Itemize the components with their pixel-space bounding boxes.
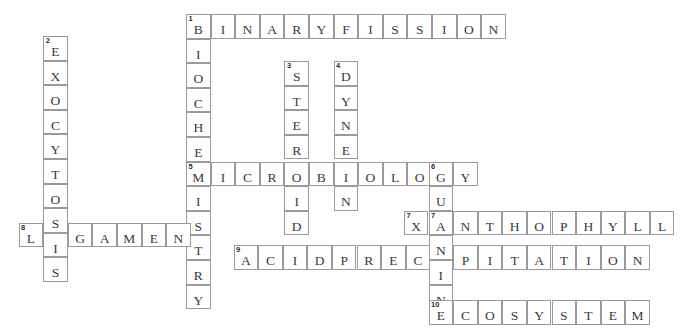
crossword-cell[interactable]: R [284, 135, 309, 160]
crossword-cell[interactable]: 3S [284, 61, 309, 86]
crossword-cell[interactable]: B [309, 162, 334, 187]
crossword-cell[interactable]: Y [453, 162, 478, 187]
crossword-cell[interactable]: T [43, 159, 68, 184]
crossword-cell[interactable]: A [260, 14, 285, 39]
crossword-cell[interactable]: N [235, 14, 260, 39]
crossword-cell[interactable]: I [358, 14, 383, 39]
crossword-cell[interactable]: S [407, 14, 432, 39]
crossword-cell[interactable]: 9A [234, 245, 259, 270]
crossword-cell[interactable]: C [453, 300, 478, 325]
crossword-cell[interactable]: T [576, 300, 601, 325]
crossword-cell[interactable]: I [283, 245, 308, 270]
crossword-cell[interactable]: I [186, 186, 211, 211]
crossword-cell[interactable]: C [235, 162, 260, 187]
crossword-cell[interactable]: I [186, 39, 211, 64]
crossword-cell[interactable]: I [429, 260, 454, 285]
crossword-cell[interactable]: R [186, 260, 211, 285]
crossword-cell[interactable]: L [383, 162, 408, 187]
crossword-cell[interactable]: N [625, 245, 650, 270]
crossword-cell[interactable]: C [258, 245, 283, 270]
crossword-cell[interactable]: T [284, 86, 309, 111]
crossword-cell[interactable]: O [601, 245, 626, 270]
crossword-cell[interactable]: 2E [43, 36, 68, 61]
crossword-cell[interactable]: 10E [429, 300, 454, 325]
crossword-cell[interactable]: A [92, 223, 117, 248]
crossword-cell[interactable]: L [650, 211, 675, 236]
crossword-cell[interactable]: F [334, 14, 359, 39]
crossword-cell[interactable]: X [43, 61, 68, 86]
crossword-cell[interactable]: O [43, 85, 68, 110]
crossword-cell[interactable]: M [117, 223, 142, 248]
crossword-cell[interactable]: O [478, 300, 503, 325]
crossword-cell[interactable]: O [358, 162, 383, 187]
crossword-cell[interactable]: C [43, 110, 68, 135]
crossword-cell[interactable]: I [432, 14, 457, 39]
crossword-cell[interactable]: O [284, 162, 309, 187]
crossword-cell[interactable]: H [502, 211, 527, 236]
crossword-cell[interactable]: N [481, 14, 506, 39]
crossword-cell[interactable]: S [383, 14, 408, 39]
crossword-cell[interactable]: I [211, 14, 236, 39]
crossword-cell[interactable]: C [406, 245, 431, 270]
crossword-cell[interactable]: Y [43, 134, 68, 159]
crossword-cell[interactable]: E [601, 300, 626, 325]
crossword-cell[interactable]: M [625, 300, 650, 325]
crossword-cell[interactable]: E [186, 137, 211, 162]
crossword-cell[interactable]: N [334, 186, 359, 211]
crossword-cell[interactable]: H [186, 112, 211, 137]
crossword-cell[interactable]: I [334, 162, 359, 187]
crossword-cell[interactable]: E [142, 223, 167, 248]
crossword-cell[interactable]: P [332, 245, 357, 270]
crossword-cell[interactable]: L [625, 211, 650, 236]
crossword-cell[interactable]: D [284, 211, 309, 236]
crossword-cell[interactable]: R [260, 162, 285, 187]
crossword-cell[interactable]: Y [601, 211, 626, 236]
crossword-cell[interactable]: G [68, 223, 93, 248]
crossword-cell[interactable]: T [478, 211, 503, 236]
crossword-cell[interactable]: T [502, 245, 527, 270]
crossword-cell[interactable]: E [334, 135, 359, 160]
crossword-cell[interactable]: N [453, 211, 478, 236]
crossword-cell[interactable]: R [284, 14, 309, 39]
crossword-cell[interactable]: N [334, 110, 359, 135]
crossword-cell[interactable]: 7X [404, 211, 429, 236]
crossword-cell[interactable]: P [552, 211, 577, 236]
crossword-cell[interactable]: O [457, 14, 482, 39]
crossword-cell[interactable]: O [43, 184, 68, 209]
crossword-cell[interactable]: O [527, 211, 552, 236]
crossword-cell[interactable]: D [307, 245, 332, 270]
crossword-cell[interactable]: S [43, 257, 68, 282]
crossword-cell[interactable]: I [43, 233, 68, 258]
crossword-cell[interactable]: Y [186, 285, 211, 310]
crossword-cell[interactable]: E [284, 110, 309, 135]
crossword-cell[interactable]: 4D [334, 61, 359, 86]
crossword-cell[interactable]: P [453, 245, 478, 270]
crossword-cell[interactable]: S [552, 300, 577, 325]
crossword-cell[interactable]: Y [334, 86, 359, 111]
cell-letter: I [285, 195, 308, 209]
crossword-cell[interactable]: 7A [429, 211, 454, 236]
crossword-cell[interactable]: I [211, 162, 236, 187]
crossword-cell[interactable]: R [357, 245, 382, 270]
crossword-cell[interactable]: 5M [186, 162, 211, 187]
crossword-cell[interactable]: N [429, 235, 454, 260]
crossword-cell[interactable]: C [186, 88, 211, 113]
crossword-cell[interactable]: S [502, 300, 527, 325]
crossword-cell[interactable]: H [576, 211, 601, 236]
crossword-cell[interactable]: 8L [19, 223, 44, 248]
crossword-cell[interactable]: N [166, 223, 191, 248]
crossword-cell[interactable]: S [43, 208, 68, 233]
crossword-cell[interactable]: 6G [429, 162, 454, 187]
crossword-cell[interactable]: O [186, 63, 211, 88]
crossword-cell[interactable]: T [552, 245, 577, 270]
crossword-cell[interactable]: Y [309, 14, 334, 39]
crossword-cell[interactable]: I [478, 245, 503, 270]
crossword-cell[interactable]: E [381, 245, 406, 270]
cell-letter: R [285, 144, 308, 158]
crossword-cell[interactable]: 1B [186, 14, 211, 39]
crossword-cell[interactable]: I [576, 245, 601, 270]
crossword-cell[interactable]: U [429, 186, 454, 211]
crossword-cell[interactable]: A [527, 245, 552, 270]
crossword-cell[interactable]: Y [527, 300, 552, 325]
crossword-cell[interactable]: I [284, 186, 309, 211]
